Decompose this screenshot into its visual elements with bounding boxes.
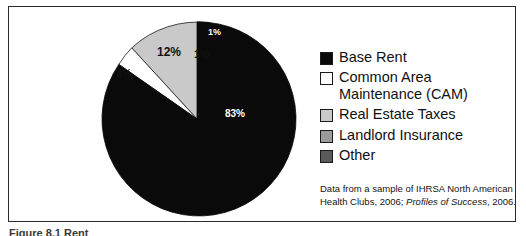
legend-label-base-rent: Base Rent xyxy=(339,49,407,65)
legend-item-landlord-insurance: Landlord Insurance xyxy=(320,127,512,143)
legend-swatch-base-rent xyxy=(320,52,333,65)
legend-label-cam: Common Area Maintenance (CAM) xyxy=(339,69,512,102)
legend-label-real-estate-taxes: Real Estate Taxes xyxy=(339,106,456,122)
legend-item-cam: Common Area Maintenance (CAM) xyxy=(320,69,512,102)
source-note-line2-before: Health Clubs, 2006; xyxy=(320,196,406,207)
legend-swatch-cam xyxy=(320,72,333,85)
legend: Base Rent Common Area Maintenance (CAM) … xyxy=(320,49,512,167)
legend-swatch-landlord-insurance xyxy=(320,130,333,143)
legend-item-other: Other xyxy=(320,147,512,163)
pie-svg xyxy=(97,19,297,219)
legend-label-landlord-insurance: Landlord Insurance xyxy=(339,127,463,143)
chart-frame: 83% 3% 12% 1% 1% Base Rent Common Area M… xyxy=(8,6,516,222)
legend-swatch-other xyxy=(320,150,333,163)
source-note: Data from a sample of IHRSA North Americ… xyxy=(320,183,518,209)
source-note-publication: Profiles of Success xyxy=(406,196,487,207)
legend-item-base-rent: Base Rent xyxy=(320,49,512,65)
legend-item-real-estate-taxes: Real Estate Taxes xyxy=(320,106,512,122)
pie-chart: 83% 3% 12% 1% 1% xyxy=(97,19,297,219)
pie-slices xyxy=(102,22,296,216)
figure-caption: Figure 8.1 Rent xyxy=(9,227,88,236)
legend-label-other: Other xyxy=(339,147,375,163)
source-note-line1: Data from a sample of IHRSA North Americ… xyxy=(320,183,513,194)
figure-root: 83% 3% 12% 1% 1% Base Rent Common Area M… xyxy=(0,0,526,236)
source-note-line2-after: , 2006. xyxy=(487,196,516,207)
legend-swatch-real-estate-taxes xyxy=(320,109,333,122)
